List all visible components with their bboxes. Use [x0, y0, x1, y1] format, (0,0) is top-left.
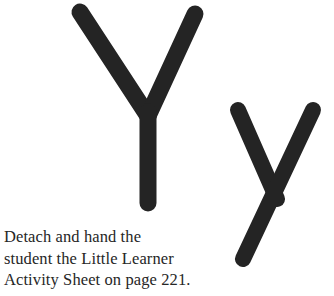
worksheet-page: Detach and hand the student the Little L… [0, 0, 334, 296]
uppercase-y-right-arm-stroke [148, 14, 195, 116]
instruction-line-1: Detach and hand the [4, 226, 204, 248]
instruction-line-3: Activity Sheet on page 221. [4, 269, 204, 291]
uppercase-y-left-arm-stroke [80, 12, 148, 116]
instruction-line-2: student the Little Learner [4, 248, 204, 270]
uppercase-letter-y [80, 12, 195, 203]
instruction-text-block: Detach and hand the student the Little L… [4, 226, 204, 291]
lowercase-letter-y [238, 110, 313, 259]
